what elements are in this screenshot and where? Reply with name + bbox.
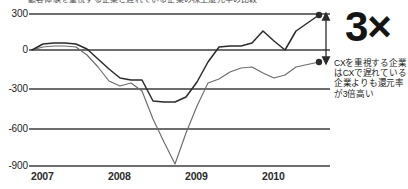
y-tick-neg900: -900	[0, 161, 28, 171]
x-tick-2009: 2009	[185, 171, 208, 182]
multiplier-callout-label: 3×	[345, 6, 391, 48]
gridlines	[29, 14, 330, 166]
annotation-line-4: が3倍高い	[334, 89, 408, 99]
annotation-line-1: CXを重視する企業	[334, 58, 408, 68]
x-tick-2007: 2007	[31, 171, 54, 182]
endpoint-dot-cx-leaders	[316, 12, 322, 18]
x-tick-2010: 2010	[262, 171, 285, 182]
x-tick-2008: 2008	[108, 171, 131, 182]
series-line-cx-laggards	[32, 46, 319, 164]
endpoint-dot-cx-laggards	[316, 59, 322, 65]
y-tick-0: 0	[0, 45, 28, 55]
annotation-line-2: はCXで遅れている	[334, 68, 408, 78]
y-tick-300: 300	[0, 9, 28, 19]
y-tick-neg600: -600	[0, 124, 28, 134]
chart-figure: 顧客体験を重視する企業と遅れている企業の株主還元率の比較 300 0 -300 …	[0, 0, 408, 189]
y-tick-neg300: -300	[0, 84, 28, 94]
annotation-line-3: 企業よりも還元率	[334, 78, 408, 88]
callout-annotation-text: CXを重視する企業 はCXで遅れている 企業よりも還元率 が3倍高い	[334, 58, 408, 99]
gap-double-arrow	[323, 13, 330, 64]
